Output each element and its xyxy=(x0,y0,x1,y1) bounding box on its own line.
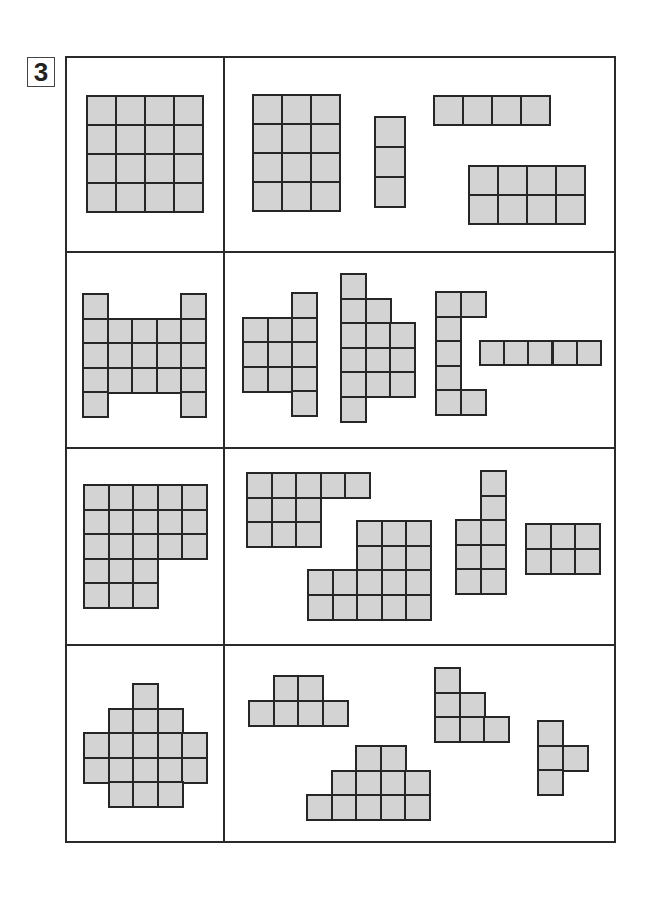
grid-cell xyxy=(525,548,552,575)
grid-cell xyxy=(381,545,408,572)
grid-cell xyxy=(552,340,578,366)
grid-cell xyxy=(491,95,522,126)
grid-cell xyxy=(83,582,110,609)
grid-cell xyxy=(82,367,109,394)
grid-cell xyxy=(83,509,110,536)
grid-cell xyxy=(86,182,117,213)
grid-cell xyxy=(144,124,175,155)
grid-cell xyxy=(497,194,528,225)
grid-cell xyxy=(295,521,322,548)
grid-cell xyxy=(131,342,158,369)
grid-cell xyxy=(455,519,482,546)
grid-cell xyxy=(480,470,507,497)
grid-cell xyxy=(132,558,159,585)
grid-cell xyxy=(281,123,312,154)
grid-cell xyxy=(389,371,416,398)
grid-cell xyxy=(434,716,461,743)
grid-cell xyxy=(306,794,333,821)
grid-cell xyxy=(144,95,175,126)
grid-cell xyxy=(537,745,564,772)
grid-cell xyxy=(181,533,208,560)
grid-cell xyxy=(525,523,552,550)
grid-cell xyxy=(355,794,382,821)
grid-cell xyxy=(356,569,383,596)
grid-cell xyxy=(435,291,462,318)
grid-cell xyxy=(132,484,159,511)
grid-cell xyxy=(157,781,184,808)
grid-cell xyxy=(307,594,334,621)
grid-cell xyxy=(156,318,183,345)
grid-cell xyxy=(365,347,392,374)
grid-cell xyxy=(374,146,406,178)
grid-cell xyxy=(307,569,334,596)
grid-cell xyxy=(405,520,432,547)
grid-cell xyxy=(83,484,110,511)
grid-cell xyxy=(455,544,482,571)
grid-cell xyxy=(468,165,499,196)
grid-cell xyxy=(435,389,462,416)
grid-cell xyxy=(355,745,382,772)
grid-cell xyxy=(555,165,586,196)
grid-cell xyxy=(108,732,135,759)
grid-cell xyxy=(107,367,134,394)
grid-cell xyxy=(340,371,367,398)
grid-cell xyxy=(83,558,110,585)
grid-cell xyxy=(144,153,175,184)
grid-cell xyxy=(555,194,586,225)
grid-cell xyxy=(404,794,431,821)
grid-cell xyxy=(108,708,135,735)
grid-cell xyxy=(273,675,300,702)
grid-cell xyxy=(86,95,117,126)
grid-cell xyxy=(83,732,110,759)
grid-cell xyxy=(291,341,318,368)
grid-cell xyxy=(181,509,208,536)
grid-cell xyxy=(380,770,407,797)
grid-cell xyxy=(527,340,553,366)
grid-cell xyxy=(132,781,159,808)
grid-cell xyxy=(468,194,499,225)
row-divider xyxy=(65,644,616,646)
grid-cell xyxy=(131,318,158,345)
grid-cell xyxy=(356,545,383,572)
grid-cell xyxy=(132,683,159,710)
grid-cell xyxy=(252,123,283,154)
grid-cell xyxy=(115,124,146,155)
grid-cell xyxy=(503,340,529,366)
grid-cell xyxy=(82,391,109,418)
grid-cell xyxy=(340,396,367,423)
grid-cell xyxy=(181,484,208,511)
grid-cell xyxy=(271,497,298,524)
grid-cell xyxy=(86,153,117,184)
grid-cell xyxy=(365,298,392,325)
grid-cell xyxy=(108,533,135,560)
grid-cell xyxy=(374,116,406,148)
grid-cell xyxy=(180,318,207,345)
grid-cell xyxy=(273,700,300,727)
grid-cell xyxy=(108,582,135,609)
column-divider xyxy=(223,56,225,843)
grid-cell xyxy=(381,594,408,621)
grid-cell xyxy=(322,700,349,727)
grid-cell xyxy=(115,153,146,184)
grid-cell xyxy=(380,745,407,772)
grid-cell xyxy=(267,341,294,368)
grid-cell xyxy=(331,770,358,797)
grid-cell xyxy=(173,182,204,213)
grid-cell xyxy=(310,123,341,154)
grid-cell xyxy=(405,569,432,596)
grid-cell xyxy=(252,181,283,212)
grid-cell xyxy=(526,194,557,225)
grid-cell xyxy=(157,757,184,784)
grid-cell xyxy=(435,340,462,367)
grid-cell xyxy=(115,182,146,213)
grid-cell xyxy=(480,568,507,595)
grid-cell xyxy=(574,548,601,575)
grid-cell xyxy=(434,667,461,694)
grid-cell xyxy=(157,533,184,560)
grid-cell xyxy=(291,292,318,319)
grid-cell xyxy=(340,273,367,300)
grid-cell xyxy=(355,770,382,797)
grid-cell xyxy=(497,165,528,196)
grid-cell xyxy=(356,594,383,621)
grid-cell xyxy=(246,472,273,499)
